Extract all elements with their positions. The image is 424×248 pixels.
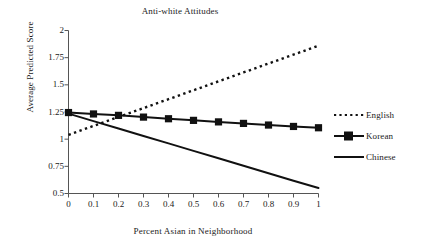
x-tick-label: 1 (304, 200, 334, 209)
chart-legend: English Korean Chinese (334, 104, 424, 167)
dotted-line-icon (334, 109, 364, 121)
chart-figure: Anti-white Attitudes Average Predicted S… (0, 0, 424, 248)
legend-item-korean: Korean (334, 125, 424, 146)
legend-label-chinese: Chinese (364, 152, 396, 162)
legend-label-korean: Korean (364, 131, 393, 141)
legend-item-english: English (334, 104, 424, 125)
solid-line-icon (334, 151, 364, 163)
legend-item-chinese: Chinese (334, 146, 424, 167)
legend-label-english: English (364, 110, 394, 120)
square-marker-line-icon (334, 130, 364, 142)
